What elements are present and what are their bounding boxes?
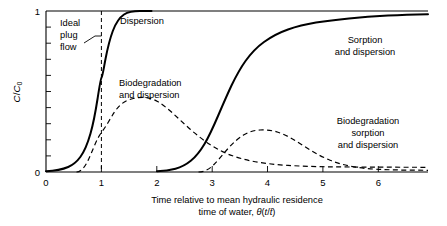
annotation-biodeg-sorption-dispersion-line1: Biodegradation [337, 116, 400, 126]
annotation-sorption-dispersion-line2: and dispersion [335, 47, 395, 57]
annotation-ideal-plug-flow-line2: plug [60, 30, 78, 40]
y-tick-label-1: 1 [35, 6, 40, 17]
y-axis-title: C/C0 [11, 82, 23, 103]
annotation-biodeg-sorption-dispersion-line2: sorption [351, 128, 384, 138]
annotation-ideal-plug-flow-line3: flow [60, 42, 77, 52]
x-axis-title-line1: Time relative to mean hydraulic residenc… [151, 195, 323, 205]
annotation-ideal-plug-flow-line1: Ideal [60, 18, 80, 28]
annotation-biodeg-sorption-dispersion-line3: and dispersion [338, 140, 398, 150]
x-tick-label-3: 3 [210, 177, 215, 188]
x-axis-title-line2: time of water, θ(t/t̄) [199, 207, 276, 217]
svg-text:C/C0: C/C0 [11, 82, 23, 103]
annotation-sorption-dispersion-line1: Sorption [348, 35, 383, 45]
y-axis-title-subscript: 0 [16, 82, 23, 86]
x-tick-label-6: 6 [376, 177, 381, 188]
figure-container: 1 0 0 1 2 3 4 5 6 C/C0 Time relative to … [0, 0, 447, 226]
x-tick-label-0: 0 [43, 177, 48, 188]
annotation-biodegradation-dispersion-line1: Biodegradation [119, 78, 182, 88]
annotation-biodegradation-dispersion-line2: and dispersion [119, 90, 179, 100]
ideal-plug-flow-leader-line [84, 36, 101, 43]
curve-biodegradation-sorption-and-dispersion [199, 130, 429, 172]
x-tick-label-5: 5 [320, 177, 325, 188]
x-tick-label-4: 4 [265, 177, 270, 188]
x-axis-title-prefix: time of water, [199, 207, 257, 217]
y-axis-ticks [46, 27, 51, 156]
y-tick-label-0: 0 [35, 167, 40, 178]
breakthrough-curve-chart: 1 0 0 1 2 3 4 5 6 C/C0 Time relative to … [0, 0, 447, 226]
x-tick-label-1: 1 [99, 177, 104, 188]
annotation-dispersion: Dispersion [120, 16, 164, 26]
x-tick-label-2: 2 [154, 177, 159, 188]
